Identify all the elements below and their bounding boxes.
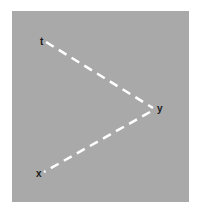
node-label-y: y [157,103,163,114]
diagram-canvas: t y x [0,0,199,213]
node-label-x: x [36,168,42,179]
node-label-t: t [40,36,44,47]
edge-t-y [46,42,153,108]
edge-y-x [44,112,150,172]
